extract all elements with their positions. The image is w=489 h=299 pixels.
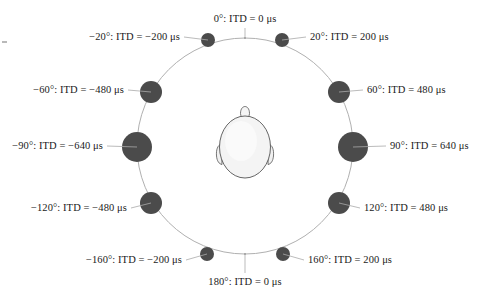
label-0deg: 0°: ITD = 0 μs — [0, 14, 489, 25]
label-90deg: 90°: ITD = 640 μs — [390, 141, 469, 152]
label-20deg: 20°: ITD = 200 μs — [310, 32, 389, 43]
label-neg160deg: −160°: ITD = −200 μs — [86, 255, 182, 266]
skull-highlight — [225, 121, 257, 161]
label-neg120deg: −120°: ITD = −480 μs — [31, 203, 127, 214]
label-neg90deg: −90°: ITD = −640 μs — [12, 141, 103, 152]
label-neg60deg: −60°: ITD = −480 μs — [33, 85, 124, 96]
itd-azimuth-figure: 0°: ITD = 0 μs 20°: ITD = 200 μs 60°: IT… — [0, 0, 489, 299]
label-60deg: 60°: ITD = 480 μs — [367, 85, 446, 96]
tick-marker-180deg — [244, 253, 246, 255]
label-neg20deg: −20°: ITD = −200 μs — [89, 32, 180, 43]
label-180deg: 180°: ITD = 0 μs — [0, 277, 489, 288]
head-top-view-icon — [216, 107, 273, 179]
label-160deg: 160°: ITD = 200 μs — [308, 255, 392, 266]
label-120deg: 120°: ITD = 480 μs — [364, 203, 448, 214]
